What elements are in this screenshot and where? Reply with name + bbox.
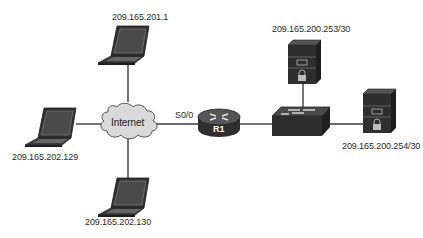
router-r1-label: R1 (213, 124, 224, 134)
network-diagram: 209.165.201.1 209.165.202.129 209.165.20… (0, 0, 423, 238)
laptop-bottom-ip-label: 209.165.202.130 (85, 217, 151, 227)
laptop-icon (98, 26, 149, 65)
laptop-top-ip-label: 209.165.201.1 (112, 12, 168, 22)
switch-icon (272, 107, 330, 136)
server-right-ip-label: 209.165.200.254/30 (342, 141, 420, 151)
interface-s0-0-label: S0/0 (175, 110, 193, 120)
internet-label: Internet (111, 117, 144, 128)
server-top-ip-label: 209.165.200.253/30 (272, 24, 350, 34)
laptop-icon (25, 108, 76, 147)
laptop-icon (98, 178, 149, 217)
diagram-canvas (0, 0, 423, 238)
server-icon (288, 40, 321, 84)
server-icon (363, 89, 396, 133)
laptop-left-ip-label: 209.165.202.129 (12, 152, 78, 162)
